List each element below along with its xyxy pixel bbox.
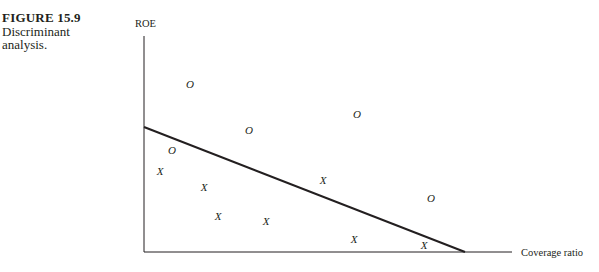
- o-marker: O: [353, 108, 361, 120]
- x-marker: X: [262, 215, 271, 227]
- x-marker: X: [420, 239, 429, 251]
- x-marker: X: [156, 165, 165, 177]
- x-axis-label: Coverage ratio: [521, 247, 583, 258]
- o-marker: O: [186, 78, 194, 90]
- scatter-plot: ROE Coverage ratio OOOOOXXXXXXX: [0, 0, 599, 272]
- o-marker: O: [245, 124, 253, 136]
- y-axis-label: ROE: [135, 18, 156, 29]
- o-marker: O: [168, 144, 176, 156]
- x-marker: X: [319, 174, 328, 186]
- discriminant-line: [144, 127, 465, 252]
- x-marker: X: [214, 210, 223, 222]
- x-marker: X: [350, 233, 359, 245]
- x-marker: X: [200, 181, 209, 193]
- o-marker: O: [427, 192, 435, 204]
